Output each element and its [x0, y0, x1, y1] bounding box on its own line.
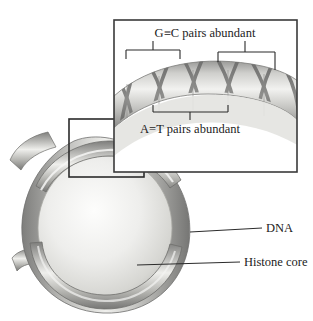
- magnified-dna-helix-panel: [114, 20, 300, 172]
- nucleosome-figure: G≡C pairs abundant A=T pairs abundant DN…: [0, 0, 313, 321]
- figure-canvas: G≡C pairs abundant A=T pairs abundant DN…: [0, 0, 313, 321]
- at-pairs-label: A=T pairs abundant: [140, 122, 240, 136]
- dna-label: DNA: [266, 221, 293, 235]
- histone-core-label: Histone core: [244, 255, 308, 269]
- dna-leader-line: [190, 228, 262, 232]
- gc-pairs-label: G≡C pairs abundant: [155, 26, 256, 40]
